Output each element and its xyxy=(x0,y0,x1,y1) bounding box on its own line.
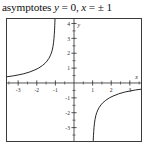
x-axis-label: x xyxy=(134,74,138,80)
caption-prefix: asymptotes xyxy=(2,1,54,13)
curve-left-branch xyxy=(7,19,55,77)
x-tick-label: -1 xyxy=(53,87,58,93)
figure-caption: asymptotes y = 0, x = ± 1 xyxy=(0,0,149,16)
y-axis-label: y xyxy=(77,22,81,28)
plot-canvas: -3-2-1123-3-2-11234xy xyxy=(7,19,141,141)
x-tick-label: -2 xyxy=(34,87,39,93)
y-tick-label: -3 xyxy=(65,125,70,131)
curve-right-branch xyxy=(93,89,141,141)
y-tick-label: 2 xyxy=(67,50,70,56)
plot-frame: -3-2-1123-3-2-11234xy xyxy=(6,18,142,142)
y-tick-label: -2 xyxy=(65,110,70,116)
x-tick-label: 3 xyxy=(128,87,131,93)
figure-container: asymptotes y = 0, x = ± 1 -3-2-1123-3-2-… xyxy=(0,0,149,147)
caption-eq2: = ± 1 xyxy=(86,1,112,13)
x-tick-label: 2 xyxy=(110,87,113,93)
y-tick-label: 4 xyxy=(67,21,70,27)
y-tick-label: 1 xyxy=(67,65,70,71)
x-tick-label: 1 xyxy=(91,87,94,93)
x-tick-label: -3 xyxy=(16,87,21,93)
y-tick-label: 3 xyxy=(67,36,70,42)
y-tick-label: -1 xyxy=(65,95,70,101)
caption-eq1: = 0, xyxy=(59,1,81,13)
